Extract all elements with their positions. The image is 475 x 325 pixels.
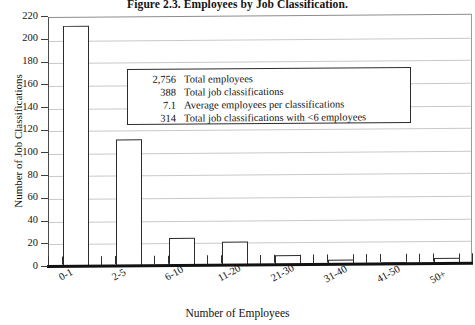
y-axis-tick [41, 198, 48, 199]
statistics-value: 388 [132, 86, 176, 99]
plot-area [48, 14, 472, 266]
statistics-row: 314Total job classifications with <6 emp… [132, 110, 404, 125]
x-axis-tick-label: 2-5 [110, 266, 128, 282]
x-axis-tick-label: 0-1 [57, 266, 75, 282]
gridline [49, 37, 471, 41]
x-axis-tick [154, 256, 155, 265]
x-axis-tick [380, 254, 381, 262]
y-axis-tick [41, 84, 48, 85]
x-axis-tick [459, 253, 460, 261]
x-axis-tick [433, 254, 434, 262]
statistics-value: 314 [132, 112, 176, 125]
x-axis-tick [247, 255, 248, 263]
y-axis-tick [41, 107, 48, 108]
x-axis-tick [406, 254, 407, 262]
x-axis-tick-label: 31-40 [322, 263, 349, 284]
y-axis-tick [41, 221, 48, 222]
x-axis-tick [274, 255, 275, 263]
x-axis-tick [472, 253, 473, 262]
x-axis-tick [101, 256, 102, 265]
gridline [49, 241, 471, 245]
statistics-label: Total job classifications with <6 employ… [176, 110, 366, 124]
x-axis-tick [168, 256, 169, 264]
x-axis-tick [260, 255, 261, 264]
y-axis-title: Number of Job Classifications [12, 26, 24, 256]
statistics-label: Total employees [176, 72, 253, 86]
x-axis-tick [115, 256, 116, 264]
y-axis-tick [41, 152, 48, 153]
y-axis-tick [41, 130, 48, 131]
statistics-value: 2,756 [132, 73, 176, 86]
chart-figure: Figure 2.3. Employees by Job Classificat… [0, 0, 475, 325]
statistics-value: 7.1 [132, 99, 176, 112]
y-axis-tick-label: 220 [4, 11, 38, 21]
x-axis-tick [141, 256, 142, 264]
x-axis-tick [419, 254, 420, 263]
gridline [49, 218, 471, 222]
gridlines [49, 15, 471, 18]
y-axis-tick [41, 243, 48, 244]
x-axis-tick [300, 255, 301, 263]
y-axis-tick [41, 39, 48, 40]
chart-title: Figure 2.3. Employees by Job Classificat… [0, 0, 475, 11]
x-axis-tick [48, 257, 49, 266]
x-axis-tick [207, 255, 208, 264]
x-axis-title: Number of Employees [0, 307, 475, 319]
statistics-label: Total job classifications [176, 85, 284, 99]
x-axis-tick [62, 257, 63, 265]
x-axis-tick-label: 41-50 [375, 263, 402, 284]
x-axis-tick [313, 255, 314, 264]
gridline [49, 173, 471, 177]
y-axis-tick [41, 62, 48, 63]
x-axis-tick [221, 255, 222, 263]
gridline [49, 128, 471, 132]
x-axis-tick [327, 254, 328, 262]
gridline [49, 150, 471, 154]
bar-series [49, 15, 471, 18]
x-axis-tick [353, 254, 354, 262]
y-axis-tick [41, 175, 48, 176]
x-axis-tick [88, 256, 89, 264]
x-axis-tick [366, 254, 367, 263]
y-axis-tick [41, 16, 48, 17]
statistics-label: Average employees per classifications [176, 97, 344, 111]
bar [63, 26, 89, 267]
x-axis-tick-label: 50+ [428, 268, 448, 286]
gridline [49, 60, 471, 64]
statistics-annotation-box: 2,756Total employees388Total job classif… [127, 67, 411, 125]
x-axis-tick-label: 6-10 [163, 264, 185, 283]
bar [116, 140, 142, 267]
x-axis-tick [194, 255, 195, 263]
gridline [49, 196, 471, 200]
